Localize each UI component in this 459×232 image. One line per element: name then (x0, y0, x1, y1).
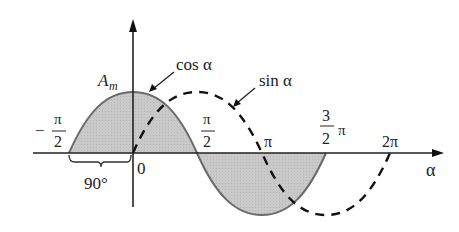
pi-label: π (264, 133, 272, 150)
alpha-axis-arrow-icon (432, 149, 444, 157)
sin-label: sin α (259, 71, 292, 90)
sin-pointer-line (237, 88, 255, 103)
cos-pointer-line (153, 72, 174, 89)
neg-half-pi-numerator: π (54, 111, 62, 127)
origin-label: 0 (137, 159, 146, 178)
half-pi-numerator: π (203, 111, 211, 127)
three-half-pi-numerator: 3 (322, 107, 330, 124)
cos-label: cos α (176, 55, 212, 74)
phase-shift-brace (69, 155, 131, 167)
alpha-axis-label: α (426, 160, 436, 180)
vertical-axis-arrow-icon (129, 19, 137, 32)
amplitude-subscript: m (109, 79, 118, 93)
three-half-pi-symbol: π (338, 122, 346, 138)
cos-pointer-arrow-icon (149, 84, 157, 92)
two-pi-label: 2π (382, 133, 398, 150)
phase-shift-label: 90° (84, 174, 108, 193)
three-half-pi-denominator: 2 (322, 130, 330, 147)
sine-cosine-diagram: 90° A m cos α sin α − π 2 0 π 2 π 3 2 π … (0, 0, 459, 232)
half-pi-denominator: 2 (203, 133, 211, 150)
amplitude-label: A (97, 71, 109, 90)
neg-half-pi-denominator: 2 (54, 133, 62, 150)
neg-half-pi-sign: − (35, 121, 45, 140)
